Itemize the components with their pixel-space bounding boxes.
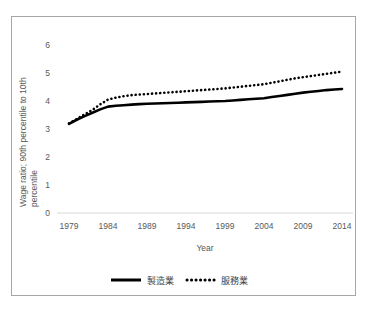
y-tick-label: 0 — [45, 208, 50, 218]
series-line-service — [69, 72, 342, 124]
y-tick-label: 3 — [45, 124, 50, 134]
x-tick-label: 1989 — [138, 221, 157, 231]
x-tick-label: 1979 — [60, 221, 79, 231]
x-axis-tick-labels: 1979 1984 1989 1994 1999 2004 2009 2014 — [60, 221, 352, 231]
y-axis-title-line2: percentile — [29, 170, 39, 207]
y-tick-label: 5 — [45, 68, 50, 78]
x-tick-label: 2014 — [333, 221, 352, 231]
x-axis-title: Year — [196, 243, 213, 253]
y-axis-title: Wage ratio; 90th percentile to 10th perc… — [18, 77, 39, 207]
chart-plot-area: 6 5 4 3 2 1 0 Wage ratio; 90th percentil… — [12, 17, 355, 295]
x-tick-label: 2009 — [294, 221, 313, 231]
y-tick-label: 4 — [45, 96, 50, 106]
x-tick-label: 1994 — [177, 221, 196, 231]
legend-label-manufacturing: 製造業 — [147, 275, 174, 286]
y-tick-label: 2 — [45, 152, 50, 162]
x-tick-label: 1999 — [216, 221, 235, 231]
line-chart-svg: 6 5 4 3 2 1 0 Wage ratio; 90th percentil… — [12, 17, 355, 295]
y-axis-tick-labels: 6 5 4 3 2 1 0 — [45, 40, 50, 218]
y-tick-label: 1 — [45, 180, 50, 190]
chart-legend: 製造業 服務業 — [111, 275, 248, 286]
y-tick-label: 6 — [45, 40, 50, 50]
legend-label-service: 服務業 — [221, 275, 248, 286]
x-tick-label: 2004 — [255, 221, 274, 231]
chart-frame: 6 5 4 3 2 1 0 Wage ratio; 90th percentil… — [11, 16, 356, 296]
series-line-manufacturing — [69, 89, 342, 124]
y-axis-title-line1: Wage ratio; 90th percentile to 10th — [18, 77, 28, 207]
x-tick-label: 1984 — [99, 221, 118, 231]
